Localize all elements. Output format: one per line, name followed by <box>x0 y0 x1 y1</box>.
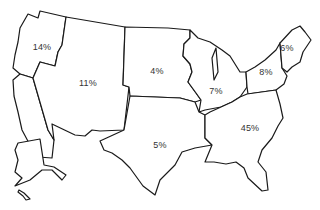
region-hawaii <box>18 190 30 200</box>
region-label-south-central: 5% <box>153 140 166 150</box>
us-map-outline <box>0 0 320 210</box>
us-map: 14% 11% 4% 7% 8% 6% 5% 45% <box>0 0 320 210</box>
region-label-great-lakes: 7% <box>209 86 222 96</box>
region-label-pacific-northwest: 14% <box>33 42 52 52</box>
region-label-new-england: 6% <box>280 43 293 53</box>
region-label-north-central: 4% <box>150 66 163 76</box>
region-alaska <box>15 139 66 186</box>
region-label-mid-atlantic: 8% <box>259 67 272 77</box>
region-label-southeast: 45% <box>241 123 260 133</box>
region-label-mountain-west: 11% <box>79 78 97 88</box>
